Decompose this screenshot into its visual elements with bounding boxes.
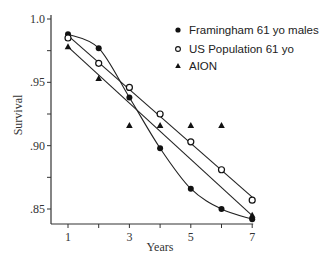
x-tick-label: 1: [65, 230, 71, 244]
y-tick-label: .85: [30, 202, 45, 216]
legend-label: Framingham 61 yo males: [189, 24, 319, 36]
y-tick-label: 1.0: [30, 12, 45, 26]
framingham-point: [126, 95, 132, 101]
framingham-point: [157, 145, 163, 151]
y-tick-label: .95: [30, 75, 45, 89]
legend-open-circle-icon: [176, 47, 181, 52]
us-population-point: [126, 84, 132, 90]
framingham-point: [188, 186, 194, 192]
legend-filled-circle-icon: [175, 27, 180, 32]
legend-label: US Population 61 yo: [189, 43, 294, 55]
aion-fit-line: [68, 47, 252, 216]
legend-triangle-icon: [175, 63, 181, 68]
x-tick-label: 5: [188, 230, 194, 244]
survival-chart: .85.90.951.01357 Framingham 61 yo malesU…: [0, 0, 327, 268]
us-population-point: [219, 167, 225, 173]
aion-point: [188, 122, 195, 128]
aion-point: [218, 122, 225, 128]
us-population-point: [157, 111, 163, 117]
x-axis-label: Years: [147, 240, 174, 254]
legend: Framingham 61 yo malesUS Population 61 y…: [175, 24, 319, 72]
us-population-point: [96, 60, 102, 66]
aion-point: [95, 75, 102, 81]
y-tick-label: .90: [30, 139, 45, 153]
aion-point: [157, 122, 164, 128]
us-population-point: [249, 197, 255, 203]
data-points: [65, 31, 256, 222]
x-tick-label: 3: [126, 230, 132, 244]
framingham-point: [219, 206, 225, 212]
aion-point: [126, 122, 133, 128]
framingham-point: [96, 45, 102, 51]
us-population-point: [188, 139, 194, 145]
aion-point: [65, 43, 72, 49]
x-tick-label: 7: [249, 230, 255, 244]
legend-label: AION: [189, 60, 217, 72]
y-axis-label: Survival: [11, 94, 25, 135]
us-population-point: [65, 35, 71, 41]
